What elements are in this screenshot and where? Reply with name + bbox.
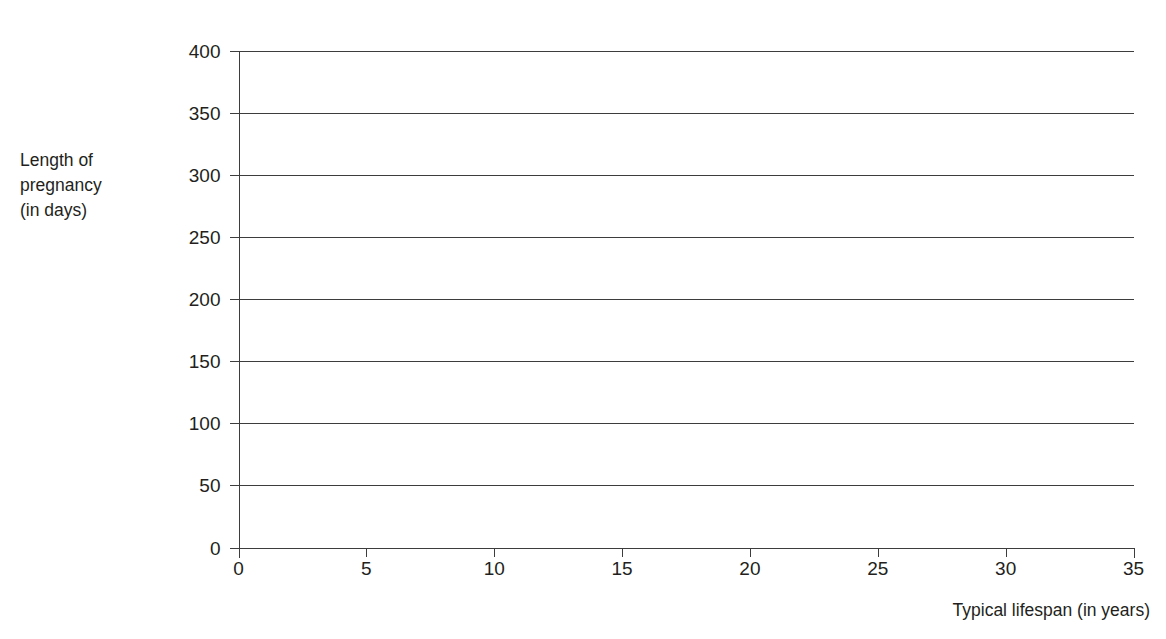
x-axis-tick-label: 5: [336, 559, 396, 578]
gridline-horizontal: [239, 113, 1134, 114]
y-axis-line: [239, 51, 240, 558]
x-axis-end-tick: [1134, 548, 1135, 558]
plot-area: 05010015020025030035040005101520253035: [0, 0, 1166, 639]
gridline-horizontal: [239, 299, 1134, 300]
x-axis-tick: [750, 548, 751, 557]
x-axis-tick-label: 30: [976, 559, 1036, 578]
y-axis-tick-label: 100: [161, 414, 221, 433]
chart-page: Length of pregnancy (in days) Typical li…: [0, 0, 1166, 639]
gridline-horizontal: [239, 175, 1134, 176]
x-axis-line: [239, 548, 1134, 549]
y-axis-tick-label: 150: [161, 352, 221, 371]
x-axis-tick: [878, 548, 879, 557]
y-axis-tick: [230, 423, 239, 424]
x-axis-tick-label: 25: [848, 559, 908, 578]
y-axis-tick: [230, 361, 239, 362]
y-axis-tick-label: 200: [161, 290, 221, 309]
x-axis-tick-label: 15: [592, 559, 652, 578]
y-axis-tick-label: 250: [161, 227, 221, 246]
y-axis-tick-label: 350: [161, 103, 221, 122]
x-axis-tick: [494, 548, 495, 557]
gridline-horizontal: [239, 361, 1134, 362]
x-axis-tick-label: 10: [464, 559, 524, 578]
y-axis-tick: [230, 175, 239, 176]
y-axis-tick: [230, 113, 239, 114]
y-axis-tick-label: 400: [161, 41, 221, 60]
y-axis-tick: [230, 51, 239, 52]
x-axis-tick: [239, 548, 240, 557]
y-axis-tick-label: 0: [161, 538, 221, 557]
gridline-horizontal: [239, 237, 1134, 238]
x-axis-tick-label: 0: [209, 559, 269, 578]
x-axis-tick-label: 35: [1104, 559, 1164, 578]
y-axis-tick: [230, 299, 239, 300]
x-axis-tick: [622, 548, 623, 557]
gridline-horizontal: [239, 423, 1134, 424]
gridline-horizontal: [239, 51, 1134, 52]
y-axis-tick-label: 50: [161, 476, 221, 495]
y-axis-tick: [230, 237, 239, 238]
x-axis-tick: [366, 548, 367, 557]
gridline-horizontal: [239, 485, 1134, 486]
y-axis-tick: [230, 485, 239, 486]
y-axis-tick: [230, 548, 239, 549]
y-axis-tick-label: 300: [161, 165, 221, 184]
x-axis-tick-label: 20: [720, 559, 780, 578]
x-axis-tick: [1006, 548, 1007, 557]
